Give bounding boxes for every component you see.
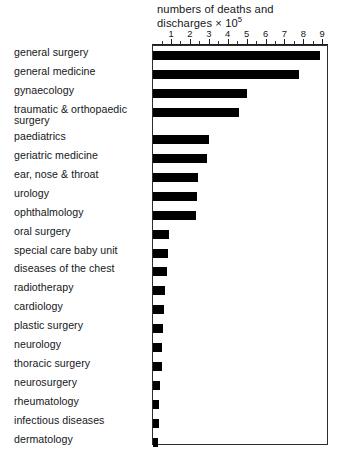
bar-row: cardiology (0, 301, 337, 320)
bar-row: thoracic surgery (0, 358, 337, 377)
x-axis-minor-tick (256, 41, 257, 44)
x-axis-tick (171, 39, 172, 44)
bar-row-label: neurosurgery (14, 377, 148, 389)
bar-row-label: cardiology (14, 301, 148, 313)
bar (153, 324, 163, 333)
bar (153, 108, 239, 117)
chart-page: numbers of deaths and discharges × 105 1… (0, 0, 337, 460)
x-axis-tick-label: 8 (296, 28, 310, 39)
bar (153, 230, 169, 239)
bar-row: geriatric medicine (0, 150, 337, 169)
bar-row: urology (0, 188, 337, 207)
x-axis-tick (247, 39, 248, 44)
x-axis-minor-tick (237, 41, 238, 44)
x-axis-tick (209, 39, 210, 44)
bar-row-label: special care baby unit (14, 245, 148, 257)
bar-rows: general surgerygeneral medicinegynaecolo… (0, 47, 337, 445)
bar-row: ear, nose & throat (0, 169, 337, 188)
bar (153, 192, 197, 201)
bar-row-label: general medicine (14, 66, 148, 78)
bar-row-label: dermatology (14, 434, 148, 446)
bar (153, 173, 198, 182)
x-axis-tick (284, 39, 285, 44)
footer-spacer (0, 446, 337, 460)
x-axis-tick-label: 9 (315, 28, 329, 39)
bar (153, 211, 196, 220)
bar (153, 267, 167, 276)
bar (153, 135, 209, 144)
bar (153, 419, 159, 428)
bar-row-label: rheumatology (14, 396, 148, 408)
bar-row-label: plastic surgery (14, 320, 148, 332)
bar-row: diseases of the chest (0, 263, 337, 282)
bar (153, 70, 299, 79)
bar-row-label: ophthalmology (14, 207, 148, 219)
x-axis-tick-label: 2 (183, 28, 197, 39)
x-axis-minor-tick (218, 41, 219, 44)
x-axis-minor-tick (294, 41, 295, 44)
bar (153, 343, 162, 352)
bar (153, 286, 165, 295)
x-axis-minor-tick (313, 41, 314, 44)
bar-row-label: ear, nose & throat (14, 169, 148, 181)
bar-row-label: geriatric medicine (14, 150, 148, 162)
bar-row: gynaecology (0, 85, 337, 104)
bar-row-label: infectious diseases (14, 415, 148, 427)
bar (153, 381, 160, 390)
bar-row: special care baby unit (0, 245, 337, 264)
bar-row-label: neurology (14, 339, 148, 351)
x-axis-tick (266, 39, 267, 44)
bar-row: ophthalmology (0, 207, 337, 226)
x-axis-tick (303, 39, 304, 44)
x-axis-tick (228, 39, 229, 44)
bar-row: traumatic & orthopaedicsurgery (0, 104, 337, 123)
bar-row: neurosurgery (0, 377, 337, 396)
bar (153, 89, 247, 98)
x-axis-minor-tick (162, 41, 163, 44)
chart-title-line-2-text: discharges × 10 (157, 17, 238, 29)
bar-row: rheumatology (0, 396, 337, 415)
bar-row: general surgery (0, 47, 337, 66)
bar (153, 51, 320, 60)
bar (153, 305, 164, 314)
bar-row-label: traumatic & orthopaedicsurgery (14, 104, 148, 126)
x-axis-tick-label: 1 (164, 28, 178, 39)
bar-row: oral surgery (0, 226, 337, 245)
chart-title-line-1: numbers of deaths and (157, 3, 274, 15)
bar-row: general medicine (0, 66, 337, 85)
x-axis-tick (322, 39, 323, 44)
bar-row-label: urology (14, 188, 148, 200)
bar-row-label: radiotherapy (14, 282, 148, 294)
chart-title: numbers of deaths and discharges × 105 (157, 3, 332, 30)
bar-row-label: gynaecology (14, 85, 148, 97)
bar-row-label: oral surgery (14, 226, 148, 238)
bar (153, 154, 207, 163)
bar-row-label: paediatrics (14, 131, 148, 143)
bar-row: neurology (0, 339, 337, 358)
bar-row-label: diseases of the chest (14, 263, 148, 275)
bar-row: infectious diseases (0, 415, 337, 434)
bar-row-label: general surgery (14, 47, 148, 59)
bar (153, 400, 159, 409)
bar-row: plastic surgery (0, 320, 337, 339)
bar (153, 249, 168, 258)
x-axis-tick-label: 5 (240, 28, 254, 39)
x-axis-tick (190, 39, 191, 44)
x-axis-minor-tick (180, 41, 181, 44)
bar-row: radiotherapy (0, 282, 337, 301)
x-axis-tick-label: 4 (221, 28, 235, 39)
x-axis-minor-tick (275, 41, 276, 44)
x-axis-tick-label: 7 (277, 28, 291, 39)
x-axis-tick-label: 3 (202, 28, 216, 39)
bar-row-label: thoracic surgery (14, 358, 148, 370)
x-axis-tick-label: 6 (259, 28, 273, 39)
chart-title-exponent: 5 (238, 15, 242, 24)
bar-row: paediatrics (0, 131, 337, 150)
bar-row-label-line-2: surgery (14, 114, 50, 126)
x-axis-minor-tick (199, 41, 200, 44)
bar (153, 362, 162, 371)
